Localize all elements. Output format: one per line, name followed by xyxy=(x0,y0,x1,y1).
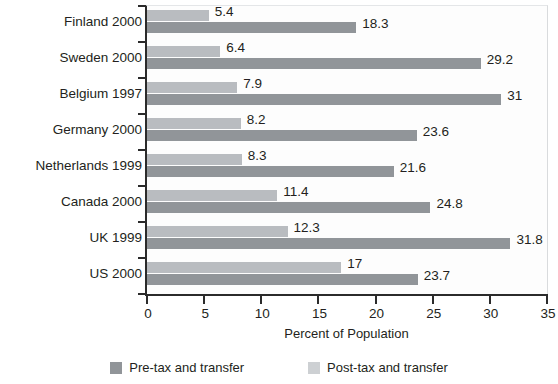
bar-value-pre-tax: 18.3 xyxy=(362,18,388,29)
x-axis-tick xyxy=(432,296,434,304)
bar-value-post-tax: 8.2 xyxy=(247,114,266,125)
bar-post-tax xyxy=(147,226,288,237)
bar-value-post-tax: 12.3 xyxy=(294,222,320,233)
legend-item: Pre-tax and transfer xyxy=(110,360,244,375)
bar-pre-tax xyxy=(147,274,418,285)
category-label: Sweden 2000 xyxy=(0,50,142,65)
bar-pre-tax xyxy=(147,202,430,213)
x-axis-tick-label: 35 xyxy=(528,306,558,321)
bar-value-pre-tax: 31.8 xyxy=(516,234,542,245)
x-axis-tick-label: 25 xyxy=(414,306,454,321)
x-axis-tick xyxy=(489,296,491,304)
y-axis-tick xyxy=(138,149,146,151)
bar-value-post-tax: 5.4 xyxy=(215,6,234,17)
bar-post-tax xyxy=(147,262,341,273)
y-axis-tick xyxy=(138,221,146,223)
bar-post-tax xyxy=(147,82,237,93)
legend-item: Post-tax and transfer xyxy=(308,360,448,375)
bar-group: Canada 200011.424.8 xyxy=(0,185,558,221)
x-axis-tick-label: 5 xyxy=(185,306,225,321)
bar-value-post-tax: 7.9 xyxy=(243,78,262,89)
bar-group: Germany 20008.223.6 xyxy=(0,113,558,149)
x-axis-tick xyxy=(317,296,319,304)
bar-pre-tax xyxy=(147,94,501,105)
y-axis-tick xyxy=(138,41,146,43)
bar-value-pre-tax: 23.7 xyxy=(424,270,450,281)
bar-pre-tax xyxy=(147,130,417,141)
x-axis-tick-label: 10 xyxy=(242,306,282,321)
bar-group: US 20001723.7 xyxy=(0,257,558,293)
y-axis-tick xyxy=(138,185,146,187)
category-label: Belgium 1997 xyxy=(0,86,142,101)
legend-swatch-icon xyxy=(308,362,320,374)
bar-group: UK 199912.331.8 xyxy=(0,221,558,257)
chart-legend: Pre-tax and transferPost-tax and transfe… xyxy=(0,360,558,375)
category-label: Finland 2000 xyxy=(0,14,142,29)
bar-pre-tax xyxy=(147,58,481,69)
bar-value-pre-tax: 24.8 xyxy=(436,198,462,209)
x-axis-tick xyxy=(203,296,205,304)
y-axis-tick xyxy=(138,77,146,79)
bar-post-tax xyxy=(147,10,209,21)
bar-post-tax xyxy=(147,118,241,129)
bar-pre-tax xyxy=(147,166,394,177)
x-axis-tick-label: 0 xyxy=(128,306,168,321)
bar-group: Netherlands 19998.321.6 xyxy=(0,149,558,185)
bar-group: Finland 20005.418.3 xyxy=(0,5,558,41)
bar-value-post-tax: 8.3 xyxy=(248,150,267,161)
y-axis-tick xyxy=(138,293,146,295)
bar-value-pre-tax: 29.2 xyxy=(487,54,513,65)
bar-value-pre-tax: 23.6 xyxy=(423,126,449,137)
bar-pre-tax xyxy=(147,238,510,249)
bar-post-tax xyxy=(147,46,220,57)
legend-swatch-icon xyxy=(110,362,122,374)
x-axis-tick-label: 20 xyxy=(357,306,397,321)
x-axis-tick xyxy=(375,296,377,304)
x-axis-tick xyxy=(260,296,262,304)
y-axis-tick xyxy=(138,5,146,7)
x-axis-tick-label: 30 xyxy=(471,306,511,321)
bar-post-tax xyxy=(147,154,242,165)
category-label: Germany 2000 xyxy=(0,122,142,137)
x-axis-line xyxy=(145,294,548,296)
bar-chart: Finland 20005.418.3Sweden 20006.429.2Bel… xyxy=(0,0,558,384)
bar-value-post-tax: 17 xyxy=(347,258,362,269)
category-label: Canada 2000 xyxy=(0,194,142,209)
category-label: UK 1999 xyxy=(0,230,142,245)
x-axis-tick xyxy=(146,296,148,304)
bar-group: Sweden 20006.429.2 xyxy=(0,41,558,77)
y-axis-tick xyxy=(138,257,146,259)
bar-group: Belgium 19977.931 xyxy=(0,77,558,113)
x-axis-tick xyxy=(546,296,548,304)
bar-pre-tax xyxy=(147,22,356,33)
category-label: US 2000 xyxy=(0,266,142,281)
x-axis-title: Percent of Population xyxy=(145,326,548,341)
bar-value-post-tax: 6.4 xyxy=(226,42,245,53)
legend-label: Post-tax and transfer xyxy=(327,360,448,375)
bar-value-pre-tax: 31 xyxy=(507,90,522,101)
bar-value-pre-tax: 21.6 xyxy=(400,162,426,173)
x-axis-tick-label: 15 xyxy=(299,306,339,321)
y-axis-tick xyxy=(138,113,146,115)
bar-post-tax xyxy=(147,190,277,201)
bar-value-post-tax: 11.4 xyxy=(283,186,308,197)
legend-label: Pre-tax and transfer xyxy=(129,360,244,375)
category-label: Netherlands 1999 xyxy=(0,158,142,173)
